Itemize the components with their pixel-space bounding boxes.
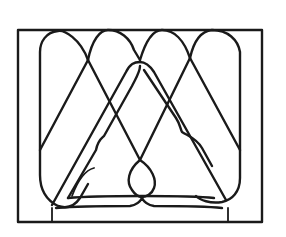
knot-pattern-drawing xyxy=(0,0,286,237)
right-loop-inner-diagonal xyxy=(190,58,240,150)
left-outer-loop xyxy=(40,31,88,207)
center-teardrop-loop xyxy=(129,160,155,197)
left-loop-inner-diagonal xyxy=(40,60,88,150)
right-center-loop xyxy=(140,30,190,60)
left-center-loop-leg xyxy=(88,60,140,160)
knot-pattern-figure xyxy=(0,0,286,237)
left-center-loop xyxy=(88,30,140,60)
right-outer-loop xyxy=(190,30,240,203)
bottom-band-lower xyxy=(56,198,222,208)
